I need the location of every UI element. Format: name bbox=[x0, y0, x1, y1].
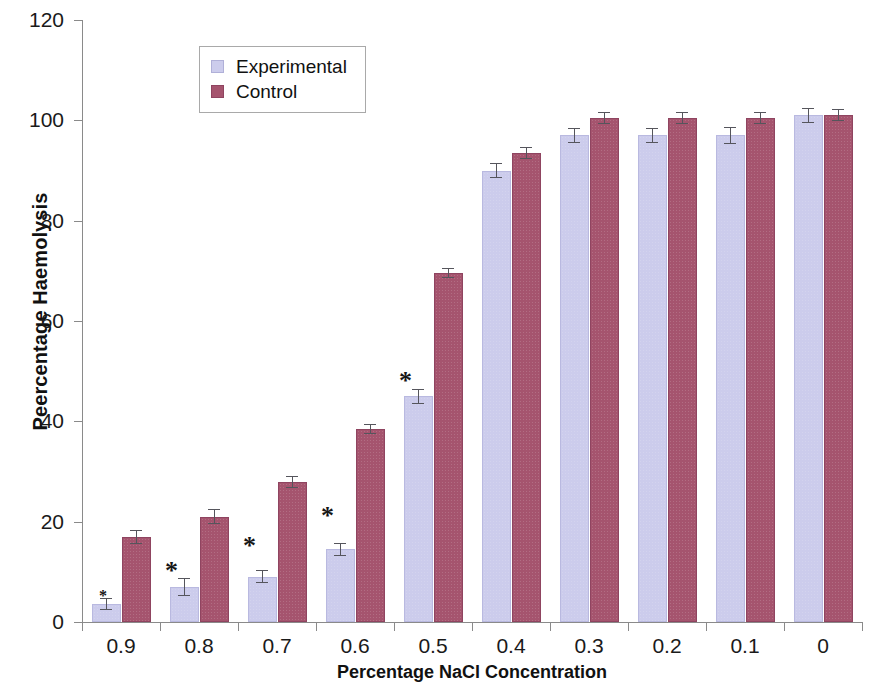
y-axis-tick bbox=[74, 120, 82, 121]
x-axis-title: Percentage NaCl Concentration bbox=[82, 662, 862, 683]
legend-swatch-control bbox=[211, 85, 224, 98]
y-axis-tick-label: 20 bbox=[12, 511, 64, 532]
bar-control-0.7 bbox=[278, 482, 307, 622]
x-axis-tick-label: 0.1 bbox=[710, 634, 780, 657]
chart-legend: ExperimentalControl bbox=[199, 46, 366, 113]
x-axis-tick-label: 0.2 bbox=[632, 634, 702, 657]
x-axis-tick bbox=[784, 622, 785, 631]
y-axis-tick bbox=[74, 321, 82, 322]
x-axis-tick bbox=[316, 622, 317, 631]
bar-experimental-0.9 bbox=[92, 604, 121, 622]
bar-experimental-0.4 bbox=[482, 171, 511, 623]
legend-label-control: Control bbox=[236, 82, 297, 101]
legend-item-experimental: Experimental bbox=[211, 54, 347, 79]
x-axis-tick bbox=[706, 622, 707, 631]
y-axis-tick bbox=[74, 622, 82, 623]
bar-control-0.6 bbox=[356, 429, 385, 622]
bar-experimental-0 bbox=[794, 115, 823, 622]
x-axis-tick bbox=[82, 622, 83, 631]
bar-experimental-0.8 bbox=[170, 587, 199, 622]
x-axis-tick bbox=[628, 622, 629, 631]
y-axis-tick-label: 80 bbox=[12, 210, 64, 231]
y-axis-tick-label: 60 bbox=[12, 310, 64, 331]
bar-experimental-0.2 bbox=[638, 135, 667, 622]
significance-asterisk-3: * bbox=[321, 503, 334, 529]
x-axis-tick bbox=[160, 622, 161, 631]
x-axis-tick-label: 0.4 bbox=[476, 634, 546, 657]
x-axis-tick-label: 0.3 bbox=[554, 634, 624, 657]
y-axis-tick bbox=[74, 20, 82, 21]
x-axis-tick bbox=[472, 622, 473, 631]
x-axis-tick-label: 0.9 bbox=[86, 634, 156, 657]
x-axis-tick-label: 0.6 bbox=[320, 634, 390, 657]
y-axis-tick-label: 120 bbox=[12, 9, 64, 30]
x-axis-tick-label: 0.8 bbox=[164, 634, 234, 657]
legend-swatch-experimental bbox=[211, 60, 224, 73]
y-axis-tick-label: 100 bbox=[12, 109, 64, 130]
significance-asterisk-0: * bbox=[99, 588, 107, 604]
legend-item-control: Control bbox=[211, 79, 347, 104]
bar-experimental-0.1 bbox=[716, 135, 745, 622]
x-axis-tick-label: 0 bbox=[788, 634, 858, 657]
bar-control-0.3 bbox=[590, 118, 619, 622]
x-axis-tick-label: 0.7 bbox=[242, 634, 312, 657]
x-axis-tick bbox=[550, 622, 551, 631]
haemolysis-bar-chart: Peercentage Haemolysis 020406080100120 *… bbox=[0, 0, 877, 692]
bar-experimental-0.3 bbox=[560, 135, 589, 622]
bar-control-0.9 bbox=[122, 537, 151, 622]
bar-control-0.8 bbox=[200, 517, 229, 622]
bar-control-0 bbox=[824, 115, 853, 622]
x-axis-tick bbox=[238, 622, 239, 631]
y-axis-tick-label: 40 bbox=[12, 410, 64, 431]
significance-asterisk-2: * bbox=[243, 533, 256, 559]
x-axis-tick bbox=[862, 622, 863, 631]
bar-experimental-0.6 bbox=[326, 549, 355, 622]
bar-control-0.1 bbox=[746, 118, 775, 622]
bar-experimental-0.7 bbox=[248, 577, 277, 622]
significance-asterisk-4: * bbox=[399, 368, 412, 394]
bar-experimental-0.5 bbox=[404, 396, 433, 622]
significance-asterisk-1: * bbox=[165, 558, 178, 584]
y-axis-tick bbox=[74, 421, 82, 422]
y-axis-tick-label: 0 bbox=[12, 611, 64, 632]
x-axis-tick-label: 0.5 bbox=[398, 634, 468, 657]
x-axis-tick bbox=[394, 622, 395, 631]
y-axis-tick bbox=[74, 221, 82, 222]
bar-control-0.5 bbox=[434, 273, 463, 622]
y-axis-tick bbox=[74, 522, 82, 523]
bar-control-0.4 bbox=[512, 153, 541, 622]
bar-control-0.2 bbox=[668, 118, 697, 622]
legend-label-experimental: Experimental bbox=[236, 57, 347, 76]
